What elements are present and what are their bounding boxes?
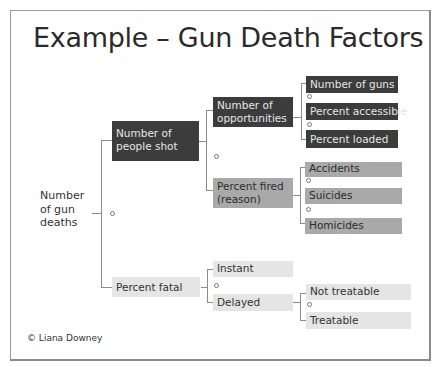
node-line: opportunities: [217, 112, 289, 125]
node-label: Percent loaded: [310, 133, 388, 145]
multiply-operator-icon: [214, 154, 219, 159]
multiply-operator-icon: [214, 283, 219, 288]
node-line: people shot: [116, 140, 195, 153]
node-delayed: Delayed: [213, 294, 293, 311]
connector: [206, 190, 213, 191]
connector: [207, 269, 208, 303]
node-number-of-guns: Number of guns: [306, 76, 398, 93]
node-label: Not treatable: [310, 285, 379, 297]
node-label: Delayed: [217, 296, 260, 308]
node-percent-accessible: Percent accessible: [306, 103, 398, 120]
node-homicides: Homicides: [305, 218, 402, 234]
connector: [101, 140, 112, 141]
node-percent-loaded: Percent loaded: [306, 130, 398, 148]
node-line: Percent fired: [217, 180, 289, 193]
copyright-credit: © Liana Downey: [27, 333, 102, 343]
node-instant: Instant: [213, 261, 293, 277]
multiply-operator-icon: [110, 211, 115, 216]
multiply-operator-icon: [307, 122, 312, 127]
node-number-of-gun-deaths: Number of gun deaths: [40, 189, 84, 230]
slide-title: Example – Gun Death Factors: [33, 22, 423, 53]
connector: [300, 167, 301, 224]
connector: [293, 117, 301, 118]
node-number-of-opportunities: Number of opportunities: [213, 97, 293, 127]
connector: [300, 293, 301, 321]
node-label: Instant: [217, 262, 254, 274]
connector: [293, 302, 300, 303]
node-label: Suicides: [309, 189, 353, 201]
node-label: Percent accessible: [310, 105, 407, 117]
node-percent-fatal: Percent fatal: [112, 277, 200, 297]
node-number-of-people-shot: Number of people shot: [112, 121, 199, 161]
node-suicides: Suicides: [305, 188, 402, 204]
node-line: (reason): [217, 193, 289, 206]
node-treatable: Treatable: [306, 312, 411, 329]
node-label: Number of guns: [310, 78, 394, 90]
node-percent-fired-reason: Percent fired (reason): [213, 178, 293, 208]
connector: [101, 140, 102, 288]
node-label: Treatable: [310, 314, 358, 326]
root-line-3: deaths: [40, 216, 84, 230]
connector: [206, 110, 213, 111]
connector: [301, 83, 302, 140]
node-line: Number of: [217, 99, 289, 112]
multiply-operator-icon: [307, 94, 312, 99]
multiply-operator-icon: [306, 178, 311, 183]
node-not-treatable: Not treatable: [306, 284, 411, 300]
root-line-2: of gun: [40, 203, 84, 217]
connector: [101, 287, 112, 288]
node-label: Percent fatal: [116, 281, 182, 293]
node-label: Accidents: [309, 162, 360, 174]
node-label: Homicides: [309, 219, 364, 231]
connector: [92, 213, 101, 214]
root-line-1: Number: [40, 189, 84, 203]
connector: [206, 110, 207, 191]
multiply-operator-icon: [306, 207, 311, 212]
multiply-operator-icon: [307, 302, 312, 307]
node-line: Number of: [116, 127, 195, 140]
node-accidents: Accidents: [305, 162, 402, 177]
